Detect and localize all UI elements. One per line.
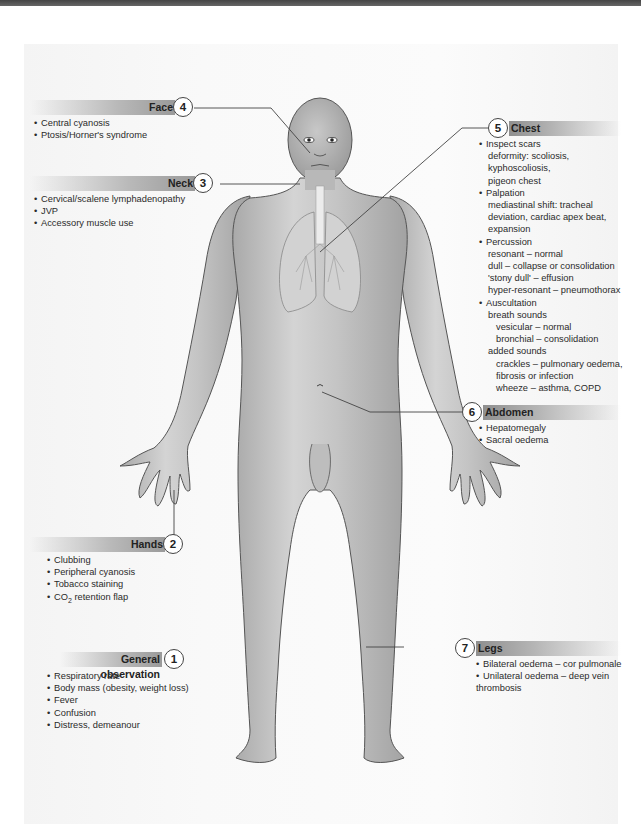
list-item: deviation, cardiac apex beat, xyxy=(479,211,623,223)
list-item: •Cervical/scalene lymphadenopathy xyxy=(34,193,185,205)
list-item: thrombosis xyxy=(476,682,622,694)
face-list: •Central cyanosis •Ptosis/Horner's syndr… xyxy=(34,117,147,141)
list-item: expansion xyxy=(479,223,623,235)
list-item: •CO2 retention flap xyxy=(47,591,135,607)
list-item: hyper-resonant – pneumothorax xyxy=(479,284,623,296)
list-item: bronchial – consolidation xyxy=(479,333,623,345)
legs-title: Legs xyxy=(478,642,503,654)
neck-number-badge: 3 xyxy=(193,173,213,193)
list-item: •Sacral oedema xyxy=(479,434,549,446)
list-item: wheeze – asthma, COPD xyxy=(479,382,623,394)
list-item: •Auscultation xyxy=(479,297,623,309)
list-item: •Palpation xyxy=(479,187,623,199)
chest-header: Chest xyxy=(509,121,621,136)
list-item: mediastinal shift: tracheal xyxy=(479,199,623,211)
hands-number-badge: 2 xyxy=(163,534,183,554)
neck-title: Neck xyxy=(168,177,193,189)
neck-list: •Cervical/scalene lymphadenopathy •JVP •… xyxy=(34,193,185,230)
hands-list: •Clubbing •Peripheral cyanosis •Tobacco … xyxy=(47,554,135,607)
chest-number-badge: 5 xyxy=(488,118,508,138)
list-item: •Inspect scars xyxy=(479,138,623,150)
list-item: •Tobacco staining xyxy=(47,578,135,590)
list-item: •Clubbing xyxy=(47,554,135,566)
abdomen-list: •Hepatomegaly •Sacral oedema xyxy=(479,422,549,446)
list-item: •Percussion xyxy=(479,236,623,248)
list-item: •Bilateral oedema – cor pulmonale xyxy=(476,658,622,670)
list-item: crackles – pulmonary oedema, xyxy=(479,358,623,370)
head xyxy=(288,98,352,182)
list-item: dull – collapse or consolidation xyxy=(479,260,623,272)
list-item: pigeon chest xyxy=(479,175,623,187)
abdomen-title: Abdomen xyxy=(485,406,533,418)
neck-header: Neck xyxy=(30,176,195,191)
list-item: •Central cyanosis xyxy=(34,117,147,129)
hands-title: Hands xyxy=(131,538,163,550)
list-item: •Ptosis/Horner's syndrome xyxy=(34,129,147,141)
list-item: 'stony dull' – effusion xyxy=(479,272,623,284)
list-item: •Body mass (obesity, weight loss) xyxy=(47,682,189,694)
face-title: Face xyxy=(149,101,173,113)
list-item: •Peripheral cyanosis xyxy=(47,566,135,578)
legs-list: •Bilateral oedema – cor pulmonale •Unila… xyxy=(476,658,622,695)
list-item: •Hepatomegaly xyxy=(479,422,549,434)
abdomen-number-badge: 6 xyxy=(462,402,482,422)
list-item: vesicular – normal xyxy=(479,321,623,333)
list-item: breath sounds xyxy=(479,309,623,321)
chest-list: •Inspect scars deformity: scoliosis, kyp… xyxy=(479,138,623,394)
list-item: •Fever xyxy=(47,694,189,706)
general-observation-number-badge: 1 xyxy=(164,649,184,669)
list-item: •Distress, demeanour xyxy=(47,719,189,731)
general-observation-header: General observation xyxy=(60,652,162,667)
list-item: deformity: scoliosis, xyxy=(479,150,623,162)
list-item: •Respiratory rate xyxy=(47,670,189,682)
abdomen-header: Abdomen xyxy=(483,405,621,420)
chest-title: Chest xyxy=(511,122,540,134)
list-item: •JVP xyxy=(34,205,185,217)
list-item: •Accessory muscle use xyxy=(34,217,185,229)
list-item: added sounds xyxy=(479,345,623,357)
list-item: •Unilateral oedema – deep vein xyxy=(476,670,622,682)
face-header: Face xyxy=(30,100,175,115)
legs-number-badge: 7 xyxy=(455,638,475,658)
general-observation-list: •Respiratory rate •Body mass (obesity, w… xyxy=(47,670,189,731)
hands-header: Hands xyxy=(30,537,165,552)
face-number-badge: 4 xyxy=(173,97,193,117)
list-item: kyphoscoliosis, xyxy=(479,162,623,174)
list-item: fibrosis or infection xyxy=(479,370,623,382)
list-item: resonant – normal xyxy=(479,248,623,260)
list-item: •Confusion xyxy=(47,707,189,719)
legs-header: Legs xyxy=(476,641,621,656)
